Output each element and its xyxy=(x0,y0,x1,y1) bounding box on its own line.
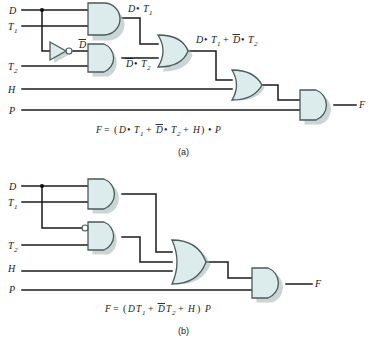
gate-inverter-panel-a xyxy=(50,42,72,63)
wire-label-or1-out: D • T 1 + D • T 2 xyxy=(195,34,258,48)
panel-b-input-labels: D T 1 T 2 H P xyxy=(7,181,18,295)
equation-a-close-paren: ) xyxy=(201,124,204,136)
wire-and2-out-b xyxy=(122,237,172,262)
gate-and1-panel-a xyxy=(88,3,125,41)
equation-a-D1: D xyxy=(118,125,126,135)
equation-a-dot3: • xyxy=(208,124,212,135)
input-label-T2-b-sub: 2 xyxy=(14,246,18,254)
gate-or1-panel-b xyxy=(172,240,211,285)
wire-label-or1-D2: D xyxy=(232,34,241,45)
equation-a-H: H xyxy=(192,125,201,135)
equation-b-open-paren: ( xyxy=(123,303,127,315)
equation-a-D2: D xyxy=(155,125,163,135)
wire-label-or1-plus: + xyxy=(223,34,229,45)
equation-b-T2-sub: 2 xyxy=(172,309,176,317)
wire-label-Dbar: D xyxy=(78,39,87,50)
junction-dot-D xyxy=(40,8,44,12)
gate-and1-panel-b xyxy=(88,179,119,214)
panel-b-equation: F = ( D T 1 + D T 2 + H ) P xyxy=(104,303,211,317)
wire-D-branch-b xyxy=(42,186,84,228)
logic-circuit-figure: D T 1 T 2 H P xyxy=(0,0,371,344)
panel-a: D T 1 T 2 H P xyxy=(7,3,366,157)
panel-a-equation: F = ( D • T 1 + D • T 2 + H ) • P xyxy=(95,124,221,138)
gate-or1-panel-a xyxy=(158,35,193,72)
input-label-D: D xyxy=(8,5,17,16)
panel-tag-b: (b) xyxy=(178,326,189,336)
input-label-T2-sub: 2 xyxy=(14,67,18,75)
panel-b: D T 1 T 2 H P xyxy=(7,179,322,336)
equation-a-plus1: + xyxy=(146,124,152,135)
wire-or1-out xyxy=(188,51,232,80)
gate-and2-panel-b xyxy=(82,222,117,255)
output-label-F-b: F xyxy=(314,278,322,289)
equation-b-plus1: + xyxy=(148,303,154,314)
equation-a-eq: = xyxy=(104,124,110,135)
gate-and3-panel-a xyxy=(300,90,331,125)
equation-a-T2-sub: 2 xyxy=(177,130,181,138)
wire-D-branch-to-inverter xyxy=(42,10,50,51)
wire-label-or1-D1: D xyxy=(195,34,204,45)
wire-label-or1-T2sub: 2 xyxy=(254,40,258,48)
wire-label-or1-T1sub: 1 xyxy=(217,40,221,48)
equation-a-dot1: • xyxy=(127,124,131,135)
input-label-D-b: D xyxy=(8,181,17,192)
equation-a-dot2: • xyxy=(164,124,168,135)
equation-b-eq: = xyxy=(113,303,119,314)
wire-label-and1-D: D xyxy=(127,3,136,14)
equation-a-plus2: + xyxy=(183,124,189,135)
input-label-T1-sub: 1 xyxy=(14,27,18,35)
equation-a-T1-sub: 1 xyxy=(140,130,144,138)
equation-b-T1-sub: 1 xyxy=(142,309,146,317)
and2-input-bubble-icon xyxy=(82,225,88,231)
gate-and2-panel-a xyxy=(88,44,117,77)
gate-or2-panel-a xyxy=(232,70,265,101)
output-label-F: F xyxy=(358,99,366,110)
wire-label-and2-dot: • xyxy=(134,58,138,69)
gate-and3-panel-b xyxy=(252,268,283,303)
input-label-H-b: H xyxy=(7,263,16,274)
panel-tag-a: (a) xyxy=(178,147,189,157)
wire-label-and1-dot: • xyxy=(136,3,140,14)
equation-a-P: P xyxy=(214,125,221,135)
wire-or1-out-b xyxy=(206,262,252,278)
wire-label-and2-out: D • T 2 xyxy=(125,58,151,72)
wire-label-and1-Tsub: 1 xyxy=(149,9,153,17)
equation-b-F: F xyxy=(104,304,111,314)
input-label-P: P xyxy=(8,105,15,116)
equation-a-F: F xyxy=(95,125,102,135)
equation-b-close-paren: ) xyxy=(197,303,200,315)
panel-a-input-labels: D T 1 T 2 H P xyxy=(7,5,18,116)
input-label-T1-b-sub: 1 xyxy=(14,203,18,211)
wire-label-inverter-out: D xyxy=(78,39,87,50)
wire-and1-out-b xyxy=(122,194,172,252)
inverter-bubble-icon xyxy=(66,48,72,54)
wire-label-and2-D: D xyxy=(125,58,134,69)
input-label-P-b: P xyxy=(8,284,15,295)
equation-b-P: P xyxy=(204,304,211,314)
equation-b-plus2: + xyxy=(178,303,184,314)
wire-label-or1-dot1: • xyxy=(204,34,208,45)
wire-label-and2-Tsub: 2 xyxy=(147,64,151,72)
equation-b-H: H xyxy=(187,304,196,314)
junction-dot-D-b xyxy=(40,184,44,188)
equation-b-D1: D xyxy=(127,304,135,314)
wire-label-or1-dot2: • xyxy=(241,34,245,45)
equation-b-D2: D xyxy=(157,304,165,314)
wire-and1-out xyxy=(122,18,158,44)
equation-a-open-paren: ( xyxy=(114,124,118,136)
input-label-H: H xyxy=(7,84,16,95)
wire-or2-out xyxy=(262,85,300,100)
wire-label-and1-out: D • T 1 xyxy=(127,3,153,17)
